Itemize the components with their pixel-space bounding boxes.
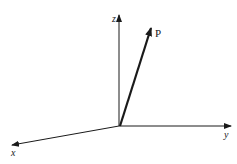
vector-p-label: P [155, 27, 161, 39]
y-axis-label: y [223, 129, 229, 140]
vector-p [120, 28, 151, 126]
z-axis-label: z [111, 13, 116, 24]
coordinate-diagram: z y x P [0, 0, 237, 164]
x-axis [12, 126, 119, 145]
x-axis-label: x [10, 147, 16, 158]
